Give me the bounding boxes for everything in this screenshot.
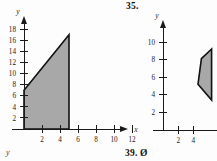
x-tick-label-6-left: 6	[76, 136, 80, 144]
y-tick-label-2-left: 2	[12, 115, 16, 123]
y-tick-label-2-right: 2	[151, 109, 155, 117]
x-tick-label-10-left: 10	[110, 136, 118, 144]
x-tick-label-2-right: 2	[176, 137, 180, 145]
y-tick-label-10-right: 10	[148, 39, 156, 47]
y-tick-label-10-left: 10	[9, 70, 17, 78]
y-axis-arrowhead-left	[21, 16, 27, 24]
y-axis-label-right: y	[154, 11, 159, 20]
y-tick-label-18-left: 18	[9, 26, 17, 34]
y-tick-label-4-left: 4	[12, 104, 16, 112]
y-tick-label-14-left: 14	[9, 48, 17, 56]
x-tick-label-8-left: 8	[94, 136, 98, 144]
problem-number-35: 35.	[126, 1, 138, 11]
problem-number-39: 39. Ø	[125, 148, 148, 158]
x-tick-label-2-left: 2	[40, 136, 44, 144]
x-tick-label-12-left: 12	[128, 136, 136, 144]
figure-right-coordinate-plane: 2 4 6 8 10 2 4 y	[145, 10, 217, 145]
y-tick-label-4-right: 4	[151, 91, 155, 99]
y-axis-label-left: y	[15, 7, 20, 16]
figure-right-svg: 2 4 6 8 10 2 4 y	[145, 10, 217, 145]
x-tick-label-4-right: 4	[192, 137, 196, 145]
shaded-polygon-region-clipped	[198, 49, 212, 100]
y-axis-arrowhead-right	[160, 20, 166, 28]
y-tick-label-6-right: 6	[151, 74, 155, 82]
shaded-trapezoid-region	[24, 35, 69, 129]
y-tick-label-8-right: 8	[151, 56, 155, 64]
figure-left-coordinate-plane: 2 4 6 8 10 12 14 16 18 2 4 6 8 10 12 y x	[0, 4, 140, 144]
figure-left-svg: 2 4 6 8 10 12 14 16 18 2 4 6 8 10 12 y x	[0, 4, 140, 144]
y-tick-label-8-left: 8	[12, 81, 16, 89]
x-axis-arrowhead-left	[120, 126, 128, 132]
x-tick-label-4-left: 4	[58, 136, 62, 144]
stray-axis-label-y: y	[6, 148, 10, 157]
y-tick-label-12-left: 12	[9, 59, 17, 67]
y-tick-label-6-left: 6	[12, 92, 16, 100]
y-tick-label-16-left: 16	[9, 37, 17, 45]
x-axis-label-left: x	[133, 125, 138, 134]
textbook-figure-page: 2 4 6 8 10 12 14 16 18 2 4 6 8 10 12 y x…	[0, 0, 217, 161]
